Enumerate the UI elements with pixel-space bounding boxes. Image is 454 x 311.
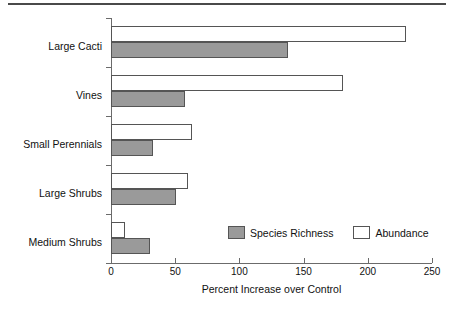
bar-abundance-small-perennials <box>111 124 192 140</box>
bar-species-richness-vines <box>111 91 185 107</box>
chart-legend: Species Richness Abundance <box>228 226 429 239</box>
legend-swatch-species-richness <box>228 226 245 239</box>
bar-abundance-medium-shrubs <box>111 222 125 238</box>
bar-abundance-large-shrubs <box>111 173 188 189</box>
category-label-small-perennials: Small Perennials <box>2 138 102 150</box>
bar-species-richness-small-perennials <box>111 140 153 156</box>
x-axis-tick-label-250: 250 <box>412 266 452 277</box>
category-label-large-shrubs: Large Shrubs <box>2 187 102 199</box>
y-axis-tick <box>106 214 111 215</box>
x-axis-title: Percent Increase over Control <box>111 283 432 295</box>
x-axis-tick-label-50: 50 <box>155 266 195 277</box>
bar-species-richness-medium-shrubs <box>111 238 150 254</box>
x-axis-tick <box>239 258 240 263</box>
legend-swatch-abundance <box>353 226 370 239</box>
x-axis-tick <box>368 258 369 263</box>
x-axis-tick <box>432 258 433 263</box>
category-label-medium-shrubs: Medium Shrubs <box>2 236 102 248</box>
x-axis-tick <box>304 258 305 263</box>
category-label-large-cacti: Large Cacti <box>2 40 102 52</box>
y-axis-tick <box>106 263 111 264</box>
y-axis-tick <box>106 67 111 68</box>
x-axis-line <box>111 263 432 264</box>
x-axis-tick-label-200: 200 <box>348 266 388 277</box>
legend-item-abundance: Abundance <box>353 226 428 239</box>
legend-label-species-richness: Species Richness <box>250 227 333 239</box>
bar-abundance-vines <box>111 75 343 91</box>
legend-label-abundance: Abundance <box>375 227 428 239</box>
x-axis-tick-label-0: 0 <box>91 266 131 277</box>
bar-species-richness-large-shrubs <box>111 189 176 205</box>
x-axis-tick-label-150: 150 <box>284 266 324 277</box>
y-axis-tick <box>106 18 111 19</box>
x-axis-tick-label-100: 100 <box>219 266 259 277</box>
plot-area: Large Cacti Vines Small Perennials Large… <box>0 0 454 311</box>
x-axis-tick <box>175 258 176 263</box>
y-axis-tick <box>106 165 111 166</box>
y-axis-tick <box>106 116 111 117</box>
x-axis-tick <box>111 258 112 263</box>
category-label-vines: Vines <box>2 89 102 101</box>
legend-item-species-richness: Species Richness <box>228 226 333 239</box>
bar-chart-figure: Large Cacti Vines Small Perennials Large… <box>0 0 454 311</box>
bar-abundance-large-cacti <box>111 26 406 42</box>
bar-species-richness-large-cacti <box>111 42 288 58</box>
